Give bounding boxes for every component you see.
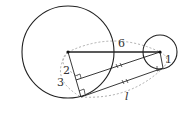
- small-center-dot: [158, 50, 161, 53]
- label-tangent-length: l: [125, 90, 129, 103]
- large-center-dot: [66, 50, 69, 53]
- parallel-line: [76, 52, 160, 80]
- label-center-distance: 6: [118, 37, 125, 50]
- label-radius-difference: 2: [63, 64, 70, 77]
- label-large-radius: 3: [57, 76, 64, 89]
- tangent-diagram: 6 2 3 1 l: [0, 0, 182, 120]
- small-radius-line: [160, 52, 163, 68]
- label-small-radius: 1: [165, 53, 172, 66]
